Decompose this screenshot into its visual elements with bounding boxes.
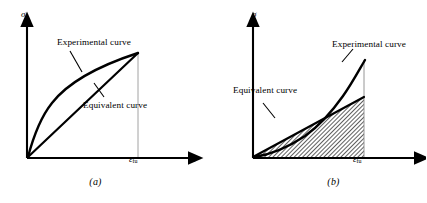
x-tick-label-epsilon-fu-a: εfu	[129, 155, 138, 166]
leader-experimental-b	[342, 49, 353, 62]
panel-a-plot	[0, 0, 213, 180]
epsilon-subscript-a: fu	[133, 158, 138, 164]
panel-b-caption: (b)	[213, 176, 426, 188]
figure-stress-strain-curves: Experimental curve Equivalent curve σ ε …	[0, 0, 427, 203]
y-axis-label-sigma-b: σ	[252, 10, 256, 19]
leader-equivalent-b	[263, 103, 275, 118]
panel-b: Experimental curve Equivalent curve σ ε …	[213, 0, 426, 203]
equivalent-curve-label-a: Equivalent curve	[83, 100, 147, 110]
epsilon-subscript-b: fu	[357, 158, 362, 164]
x-tick-label-epsilon-fu-b: εfu	[353, 155, 362, 166]
panel-a-caption: (a)	[0, 176, 213, 188]
experimental-curve-label-a: Experimental curve	[57, 37, 131, 47]
experimental-curve-label-b: Experimental curve	[332, 39, 406, 49]
panel-a: Experimental curve Equivalent curve σ ε …	[0, 0, 213, 203]
y-axis-label-sigma-a: σ	[21, 10, 25, 19]
x-axis-label-epsilon-a: ε	[192, 155, 196, 164]
leader-experimental-a	[70, 51, 82, 72]
equivalent-curve-label-b: Equivalent curve	[233, 85, 297, 95]
